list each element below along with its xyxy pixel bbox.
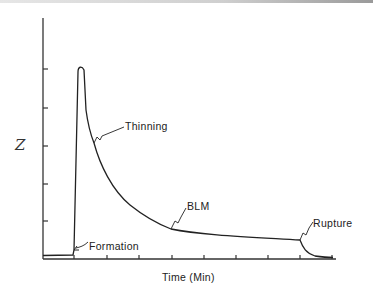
rupture-annotation: Rupture bbox=[300, 217, 352, 240]
thinning-annotation: Thinning bbox=[94, 120, 168, 143]
formation-annotation: Formation bbox=[74, 240, 139, 252]
axes bbox=[43, 18, 336, 259]
blm-label: BLM bbox=[187, 200, 210, 212]
thinning-label: Thinning bbox=[125, 120, 168, 132]
formation-label: Formation bbox=[89, 240, 139, 252]
rupture-label: Rupture bbox=[313, 217, 352, 229]
y-axis-label: Z bbox=[14, 136, 26, 154]
blm-annotation: BLM bbox=[171, 200, 210, 229]
y-ticks bbox=[43, 69, 48, 221]
chart-plot: Formation Thinning BLM Rupture Z Time (M… bbox=[0, 0, 373, 299]
x-axis-label: Time (Min) bbox=[162, 271, 215, 283]
impedance-trace bbox=[43, 67, 333, 257]
